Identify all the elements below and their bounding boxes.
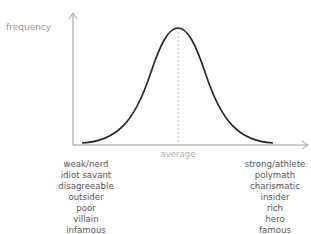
left-label: villain bbox=[52, 214, 120, 225]
left-tail-labels: weak/nerd idiot savant disagreeable outs… bbox=[52, 159, 120, 234]
right-label: rich bbox=[235, 203, 311, 214]
left-label: idiot savant bbox=[52, 170, 120, 181]
right-label: strong/athlete bbox=[235, 159, 311, 170]
left-label: outsider bbox=[52, 192, 120, 203]
left-label: poor bbox=[52, 203, 120, 214]
left-label: disagreeable bbox=[52, 181, 120, 192]
right-label: charismatic bbox=[235, 181, 311, 192]
right-label: insider bbox=[235, 192, 311, 203]
x-axis-center-label: average bbox=[158, 149, 198, 159]
right-tail-labels: strong/athlete polymath charismatic insi… bbox=[235, 159, 311, 234]
right-label: hero bbox=[235, 214, 311, 225]
right-label: polymath bbox=[235, 170, 311, 181]
bell-curve bbox=[82, 28, 273, 143]
right-label: famous bbox=[235, 225, 311, 234]
y-axis-label: frequency bbox=[6, 22, 51, 32]
left-label: weak/nerd bbox=[52, 159, 120, 170]
left-label: infamous bbox=[52, 225, 120, 234]
